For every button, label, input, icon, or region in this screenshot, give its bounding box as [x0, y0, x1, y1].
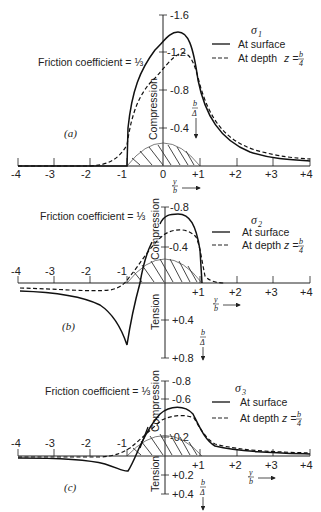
- svg-text:+2: +2: [229, 286, 242, 298]
- panel-a: -4 -3 -2 -1 0 +1 +2 +3 +4 y b -1.6 -1.2 …: [11, 9, 313, 195]
- x-tick-labels-a: -4 -3 -2 -1 0 +1 +2 +3 +4: [11, 168, 313, 180]
- svg-text:-4: -4: [11, 168, 21, 180]
- svg-text:b: b: [299, 50, 303, 59]
- svg-text:z =: z =: [283, 239, 298, 251]
- svg-text:b: b: [214, 304, 218, 313]
- panel-label-b: (b): [62, 320, 75, 333]
- svg-text:-2: -2: [81, 437, 91, 449]
- svg-text:At surface: At surface: [242, 226, 289, 238]
- svg-text:At surface: At surface: [240, 396, 287, 408]
- svg-text:Δ: Δ: [191, 109, 197, 118]
- svg-text:4: 4: [299, 59, 303, 68]
- b-over-delta-label-a: b Δ: [191, 99, 198, 138]
- svg-text:-1: -1: [117, 168, 127, 180]
- svg-text:-4: -4: [11, 437, 21, 449]
- svg-text:0: 0: [160, 168, 166, 180]
- tension-label-c: Tension: [149, 456, 161, 492]
- friction-annotation-a: Friction coefficient = ⅓: [38, 56, 143, 68]
- svg-text:Δ: Δ: [199, 338, 205, 347]
- svg-text:+1: +1: [192, 459, 205, 471]
- svg-text:b: b: [201, 478, 205, 487]
- svg-text:-0.8: -0.8: [170, 201, 189, 213]
- svg-text:-0.6: -0.6: [172, 393, 191, 405]
- friction-annotation-b: Friction coefficient = ⅓: [40, 210, 145, 222]
- legend-b: σ 2 At surface At depth z = b 4: [212, 213, 304, 255]
- x-ticks-a: [18, 158, 310, 166]
- svg-text:-3: -3: [45, 265, 55, 277]
- sigma2-depth-curve: [20, 230, 225, 291]
- y-tick-labels-c: -0.8 -0.6 -0.2 +0.2 +0.4: [170, 375, 194, 500]
- tension-label-b: Tension: [149, 294, 161, 330]
- svg-text:σ: σ: [251, 213, 258, 227]
- svg-text:+1: +1: [192, 286, 205, 298]
- svg-text:b: b: [173, 186, 177, 195]
- legend-c: σ 3 At surface At depth z = b 4: [212, 381, 302, 428]
- svg-text:-1.6: -1.6: [170, 9, 189, 21]
- svg-text:+4: +4: [300, 168, 313, 180]
- svg-text:4: 4: [297, 419, 301, 428]
- compression-label-b: Compression: [149, 198, 161, 260]
- svg-text:y: y: [248, 468, 253, 477]
- svg-text:σ: σ: [251, 23, 258, 37]
- svg-text:y: y: [172, 177, 177, 186]
- svg-text:+1: +1: [192, 168, 205, 180]
- svg-text:At depth: At depth: [240, 412, 279, 424]
- compression-label-a: Compression: [147, 78, 159, 140]
- svg-text:4: 4: [299, 246, 303, 255]
- svg-text:+3: +3: [265, 459, 278, 471]
- svg-text:b: b: [249, 477, 253, 486]
- svg-text:-2: -2: [81, 168, 91, 180]
- legend-a: σ 1 At surface At depth z = b 4: [212, 23, 304, 68]
- svg-text:b: b: [201, 328, 205, 337]
- svg-text:-3: -3: [45, 437, 55, 449]
- sigma1-depth-curve: [18, 53, 310, 166]
- svg-text:σ: σ: [235, 381, 242, 395]
- svg-text:+0.4: +0.4: [172, 314, 194, 326]
- panel-label-c: (c): [64, 481, 77, 494]
- svg-text:b: b: [299, 237, 303, 246]
- svg-text:-4: -4: [11, 265, 21, 277]
- svg-text:z =: z =: [281, 412, 296, 424]
- svg-text:+0.2: +0.2: [172, 469, 194, 481]
- svg-text:+0.4: +0.4: [172, 488, 194, 500]
- stress-distribution-figure: -4 -3 -2 -1 0 +1 +2 +3 +4 y b -1.6 -1.2 …: [0, 0, 321, 512]
- svg-text:-3: -3: [45, 168, 55, 180]
- svg-text:z =: z =: [283, 52, 298, 64]
- svg-text:-0.4: -0.4: [170, 122, 189, 134]
- svg-text:y: y: [213, 295, 218, 304]
- svg-text:At depth: At depth: [242, 239, 281, 251]
- friction-annotation-c: Friction coefficient = ⅓: [45, 385, 150, 397]
- svg-text:-0.8: -0.8: [172, 375, 191, 387]
- svg-text:+3: +3: [265, 168, 278, 180]
- b-over-delta-label-c: b Δ: [199, 478, 206, 510]
- panel-b: -4 -3 -2 -1 +1 +2 +3 +4 y b -0.8 -0.4 +0…: [11, 198, 313, 364]
- svg-text:At surface: At surface: [238, 38, 285, 50]
- svg-text:+0.8: +0.8: [172, 352, 194, 364]
- svg-text:+3: +3: [265, 286, 278, 298]
- panel-label-a: (a): [64, 127, 77, 140]
- svg-text:+4: +4: [300, 286, 313, 298]
- svg-text:-0.4: -0.4: [169, 241, 188, 253]
- svg-text:At depth: At depth: [238, 52, 277, 64]
- svg-text:b: b: [193, 99, 197, 108]
- b-over-delta-label-b: b Δ: [199, 328, 206, 360]
- panel-c: -4 -3 -2 -1 +1 +2 +3 +4 y b -0.8 -0.6 -0…: [11, 370, 313, 510]
- y-tick-labels-a: -1.6 -1.2 -0.8 -0.4: [167, 9, 189, 134]
- svg-text:-1: -1: [117, 437, 127, 449]
- svg-text:-0.8: -0.8: [170, 84, 189, 96]
- svg-text:-2: -2: [81, 265, 91, 277]
- svg-text:+4: +4: [300, 459, 313, 471]
- svg-text:b: b: [297, 410, 301, 419]
- svg-text:-1: -1: [117, 265, 127, 277]
- svg-text:-0.2: -0.2: [170, 431, 189, 443]
- svg-text:+2: +2: [229, 459, 242, 471]
- svg-text:Δ: Δ: [199, 488, 205, 497]
- svg-text:+2: +2: [229, 168, 242, 180]
